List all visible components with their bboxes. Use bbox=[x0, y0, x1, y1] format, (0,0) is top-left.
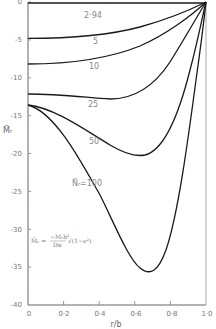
y-tick-label: -15 bbox=[11, 112, 22, 120]
curve-label-25: 25 bbox=[88, 100, 98, 109]
x-axis-title: r/b bbox=[110, 320, 121, 329]
y-axis-title: M̄ᵣ bbox=[3, 125, 13, 135]
formula-lhs: M̄ᵣ = bbox=[31, 237, 46, 244]
x-tick-label: 1·0 bbox=[201, 310, 212, 318]
curve-n-5 bbox=[28, 2, 206, 38]
y-tick-label: -40 bbox=[11, 301, 22, 309]
x-tick-label: 0·2 bbox=[58, 310, 69, 318]
x-ticks bbox=[64, 301, 171, 305]
formula-rhs: √(1−ν²) bbox=[68, 237, 91, 244]
curve-n-25 bbox=[28, 2, 206, 99]
formula-annotation: M̄ᵣ = −Mᵣb² Dα √(1−ν²) bbox=[31, 233, 91, 248]
x-tick-label: 0·6 bbox=[130, 310, 142, 318]
y-tick-label: -5 bbox=[15, 36, 22, 44]
x-tick-label: 0 bbox=[27, 310, 31, 318]
curve-label-100: N̄ᵣ=100 bbox=[72, 178, 102, 188]
y-tick-label: -35 bbox=[11, 263, 22, 271]
formula-denominator: Dα bbox=[53, 241, 62, 248]
curve-n-10 bbox=[28, 2, 206, 64]
x-tick-label: 0·8 bbox=[166, 310, 177, 318]
curve-n-50 bbox=[28, 2, 206, 156]
y-tick-label: -25 bbox=[11, 188, 22, 196]
curve-n-100 bbox=[28, 2, 206, 272]
y-tick-label: -20 bbox=[11, 150, 22, 158]
curve-label-50: 50 bbox=[89, 137, 99, 146]
y-tick-labels: 0 -5 -10 -15 -20 -25 -30 -35 -40 bbox=[11, 0, 22, 309]
y-tick-label: -10 bbox=[11, 74, 22, 82]
curve-label-5: 5 bbox=[93, 37, 98, 46]
curve-label-10: 10 bbox=[89, 62, 99, 71]
x-tick-labels: 0 0·2 0·4 0·6 0·8 1·0 bbox=[27, 310, 213, 318]
y-tick-label: -30 bbox=[11, 226, 22, 234]
x-tick-label: 0·4 bbox=[94, 310, 106, 318]
y-tick-label: 0 bbox=[18, 0, 22, 6]
chart-canvas: 0 -5 -10 -15 -20 -25 -30 -35 -40 0 0·2 0… bbox=[0, 0, 216, 329]
curve-label-2-94: 2·94 bbox=[84, 11, 102, 20]
curves bbox=[28, 2, 206, 272]
